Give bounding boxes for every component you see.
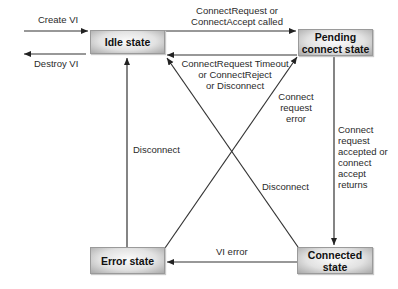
label-pending-to-connected: Connect request accepted or connect acce… [338, 124, 388, 190]
label-error-to-idle: Disconnect [133, 144, 180, 155]
connected-state-label-line1: Connected [308, 249, 362, 261]
label-create-vi: Create VI [38, 14, 78, 25]
connected-state-box: Connected state [297, 247, 373, 274]
pending-connect-state-box: Pending connect state [298, 29, 373, 56]
label-error-to-pending: Connect request error [276, 91, 316, 124]
label-destroy-vi: Destroy VI [34, 58, 78, 69]
label-connected-to-error: VI error [216, 246, 248, 257]
idle-state-box: Idle state [90, 30, 165, 54]
error-state-label: Error state [101, 255, 154, 267]
label-idle-to-pending: ConnectRequest or ConnectAccept called [187, 5, 287, 27]
pending-state-label-line1: Pending [315, 31, 356, 43]
idle-state-label: Idle state [105, 36, 151, 48]
pending-state-label-line2: connect state [302, 43, 370, 55]
error-state-box: Error state [90, 247, 165, 274]
label-pending-to-idle: ConnectRequest Timeout or ConnectReject … [175, 58, 295, 91]
label-connected-to-idle: Disconnect [262, 181, 309, 192]
connected-state-label-line2: state [323, 261, 348, 273]
